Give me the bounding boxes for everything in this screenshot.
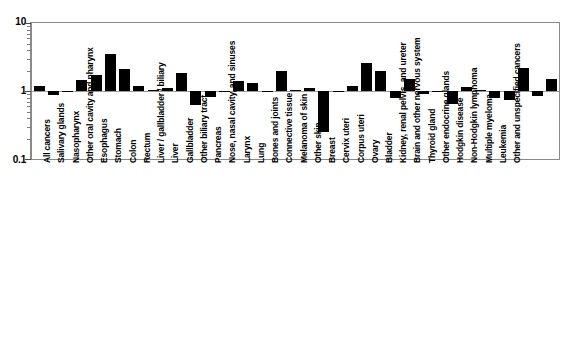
x-axis-label-text: Ovary: [371, 140, 380, 163]
bar: [375, 71, 386, 92]
x-axis-label-text: Hodgkin disease: [456, 98, 465, 163]
x-axis-label-text: Breast: [328, 137, 337, 163]
x-axis-category-labels: All cancersSalivary glandsNasopharynxOth…: [0, 161, 575, 353]
x-axis-label-text: Cervix uteri: [342, 118, 351, 163]
bar: [546, 79, 557, 91]
x-axis-label-text: Gallbladder: [186, 118, 195, 163]
bar: [247, 83, 258, 91]
bar: [34, 86, 45, 91]
bar: [48, 91, 59, 95]
x-axis-label-text: Nasopharynx: [72, 111, 81, 163]
bar: [361, 63, 372, 91]
bar: [333, 91, 344, 92]
x-axis-label-text: Kidney, renal pelvis, and ureter: [399, 42, 408, 163]
x-axis-label-text: Other and unspecified cancers: [513, 43, 522, 163]
x-axis-label-text: Bones and joints: [271, 97, 280, 163]
bar: [262, 91, 273, 92]
x-axis-label-text: Liver / gallbladder / biliary: [157, 62, 166, 163]
bar-chart: 10 1 0.1 All cancersSalivary glandsNasop…: [0, 0, 575, 353]
x-axis-label-text: Other endocrine glands: [442, 71, 451, 163]
x-axis-label-text: Brain and other nervous system: [413, 38, 422, 163]
bar: [304, 88, 315, 91]
bar: [532, 91, 543, 96]
bar: [290, 90, 301, 91]
x-axis-label-text: Larynx: [243, 136, 252, 163]
baseline-reference-line: [32, 91, 559, 92]
bar: [276, 71, 287, 92]
x-axis-label-text: Other skin: [314, 122, 323, 163]
plot-area: [31, 22, 560, 160]
x-axis-label-text: Melanoma of skin: [300, 94, 309, 163]
x-axis-label-text: Bladder: [385, 132, 394, 163]
x-axis-label-text: All cancers: [43, 119, 52, 163]
x-axis-label-text: Stomach: [114, 128, 123, 163]
x-axis-label-text: Colon: [129, 140, 138, 163]
x-axis-label-text: Other biliary tract: [200, 95, 209, 163]
x-axis-label-text: Corpus uteri: [357, 114, 366, 163]
bar: [133, 86, 144, 91]
x-axis-label-text: Pancreas: [214, 126, 223, 163]
x-axis-label-text: Other oral cavity and pharynx: [86, 47, 95, 163]
bar: [105, 54, 116, 91]
x-axis-label-text: Multiple myeloma: [485, 94, 494, 163]
bar: [62, 91, 73, 92]
x-axis-label-text: Thyroid gland: [428, 109, 437, 163]
bar: [176, 73, 187, 91]
x-axis-label-text: Non-Hodgkin lymphoma: [470, 68, 479, 163]
x-axis-label-text: Leukemia: [499, 125, 508, 163]
x-axis-label-text: Rectum: [143, 133, 152, 163]
bar: [347, 86, 358, 91]
x-axis-label-text: Nose, nasal cavity, and sinuses: [228, 41, 237, 163]
x-axis-label-text: Liver: [171, 143, 180, 163]
x-axis-label-text: Connective tissue: [285, 93, 294, 163]
x-axis-label-text: Salivary glands: [57, 103, 66, 163]
x-axis-label-text: Lung: [257, 143, 266, 163]
x-axis-label-text: Esophagus: [100, 119, 109, 163]
bar: [119, 69, 130, 91]
